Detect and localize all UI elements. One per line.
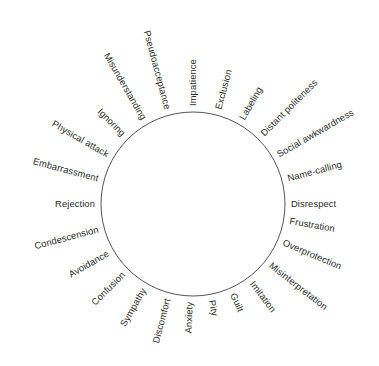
circle-label: Labeling [238, 85, 265, 121]
circle-label: Condescension [33, 225, 99, 252]
labels-layer: DisrespectName-callingSocial awkwardness… [0, 0, 379, 366]
circle-label: Sympathy [118, 286, 148, 328]
circle-label: Pity [207, 299, 220, 317]
circle-label: Anxiety [183, 302, 194, 334]
circle-label: Embarrassment [32, 156, 100, 183]
circle-label: Disrespect [291, 199, 336, 209]
circle-label: Name-calling [286, 159, 343, 183]
circle-label: Frustration [289, 216, 336, 234]
circle-label: Physical attack [50, 119, 110, 160]
circle-label: Exclusion [214, 68, 234, 110]
circle-label: Pseudoacceptance [142, 29, 173, 110]
circle-label: Rejection [55, 199, 95, 209]
circle-label: Imitation [248, 279, 278, 314]
circle-label: Impatience [188, 59, 198, 106]
circle-label: Overprotection [281, 238, 343, 272]
radial-label-diagram: DisrespectName-callingSocial awkwardness… [0, 0, 379, 366]
circle-label: Confusion [90, 270, 128, 308]
circle-label: Guilt [228, 291, 245, 313]
circle-label: Avoidance [67, 249, 111, 280]
circle-label: Discomfort [151, 297, 173, 344]
circle-label: Ignoring [96, 107, 128, 139]
